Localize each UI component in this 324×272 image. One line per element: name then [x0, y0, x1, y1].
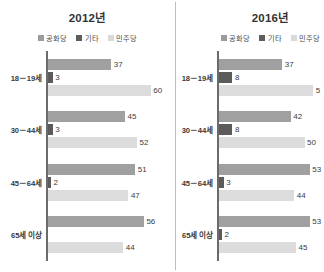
- bar-row-republican: 37: [48, 59, 175, 70]
- bar-value-other: 3: [226, 178, 230, 187]
- legend-label-other: 기타: [85, 33, 99, 43]
- legend-swatch-democrat-icon: [108, 35, 114, 41]
- dual-bar-chart-figure: 2012년 공화당 기타 민주당 18－19세: [0, 0, 324, 272]
- bar-group: 65세 이상 53 2 45: [175, 211, 324, 259]
- chart-title-2016: 2016년: [175, 0, 324, 26]
- bar-row-democrat: 44: [219, 190, 324, 201]
- bar-republican: [219, 59, 283, 70]
- bar-value-other: 2: [53, 178, 57, 187]
- chart-panel-2016: 2016년 공화당 기타 민주당 18－19세: [175, 0, 324, 272]
- bar-set: 53 2 45: [217, 211, 324, 259]
- bar-group: 18－19세 37 3 60: [0, 53, 175, 101]
- bar-value-republican: 42: [293, 112, 302, 121]
- legend-label-republican: 공화당: [229, 33, 250, 43]
- category-label: 45－64세: [175, 177, 217, 188]
- bar-set: 45 3 52: [46, 106, 175, 154]
- bar-set: 42 8 50: [217, 106, 324, 154]
- bar-group: 30－44세 42 8 50: [175, 106, 324, 154]
- legend-item-democrat: 민주당: [291, 33, 321, 43]
- legend-label-democrat: 민주당: [299, 33, 320, 43]
- legend-label-democrat: 민주당: [116, 33, 137, 43]
- bar-other: [219, 72, 233, 83]
- bar-row-republican: 56: [48, 216, 175, 227]
- category-label: 18－19세: [175, 72, 217, 83]
- legend-item-republican: 공화당: [221, 33, 251, 43]
- bar-row-other: 3: [48, 72, 175, 83]
- bar-row-democrat: 60: [48, 85, 175, 96]
- bar-republican: [219, 216, 310, 227]
- bar-value-democrat: 5: [316, 86, 320, 95]
- bar-row-democrat: 50: [219, 137, 324, 148]
- plot-area-2016: 18－19세 37 8 5: [175, 51, 324, 267]
- bar-democrat: [219, 242, 296, 253]
- bar-value-democrat: 44: [126, 243, 135, 252]
- bar-row-other: 3: [48, 124, 175, 135]
- bar-democrat: [48, 137, 137, 148]
- bar-republican: [219, 164, 310, 175]
- bar-row-republican: 51: [48, 164, 175, 175]
- legend-item-other: 기타: [259, 33, 282, 43]
- bar-republican: [48, 164, 136, 175]
- bar-value-republican: 45: [127, 112, 136, 121]
- bar-row-republican: 37: [219, 59, 324, 70]
- bar-set: 37 3 60: [46, 53, 175, 101]
- legend-swatch-republican-icon: [38, 35, 44, 41]
- legend-swatch-republican-icon: [221, 35, 227, 41]
- bar-value-democrat: 45: [298, 243, 307, 252]
- bar-democrat: [219, 137, 305, 148]
- bar-group: 65세 이상 56 44: [0, 211, 175, 259]
- bar-row-republican: 53: [219, 164, 324, 175]
- legend-swatch-other-icon: [76, 35, 82, 41]
- bar-other: [48, 72, 53, 83]
- bar-value-other: 8: [235, 73, 239, 82]
- bar-value-democrat: 44: [297, 191, 306, 200]
- bar-set: 37 8 5: [217, 53, 324, 101]
- category-label: 45－64세: [0, 177, 46, 188]
- bar-row-democrat: 5: [219, 85, 324, 96]
- legend-item-democrat: 민주당: [108, 33, 138, 43]
- bar-row-other: 2: [48, 177, 175, 188]
- bar-value-republican: 37: [114, 60, 123, 69]
- bar-republican: [219, 111, 291, 122]
- bar-row-other: 8: [219, 72, 324, 83]
- legend-2016: 공화당 기타 민주당: [175, 31, 324, 45]
- bar-republican: [48, 59, 112, 70]
- bar-row-democrat: 52: [48, 137, 175, 148]
- bar-value-republican: 37: [285, 60, 294, 69]
- bar-democrat: [48, 242, 124, 253]
- bar-value-democrat: 50: [307, 138, 316, 147]
- bar-other: [48, 177, 51, 188]
- bar-group: 18－19세 37 8 5: [175, 53, 324, 101]
- bar-set: 53 3 44: [217, 158, 324, 206]
- category-label: 30－44세: [175, 124, 217, 135]
- legend-item-republican: 공화당: [38, 33, 68, 43]
- bar-group: 45－64세 53 3 44: [175, 158, 324, 206]
- bar-value-republican: 53: [312, 217, 321, 226]
- bar-groups-2016: 18－19세 37 8 5: [175, 51, 324, 261]
- category-label: 18－19세: [0, 72, 46, 83]
- bar-row-other: 8: [219, 124, 324, 135]
- bar-value-other: 2: [224, 230, 228, 239]
- bar-republican: [48, 216, 144, 227]
- legend-swatch-other-icon: [259, 35, 265, 41]
- bar-other: [48, 124, 53, 135]
- chart-title-2012: 2012년: [0, 0, 175, 26]
- bar-democrat: [48, 190, 129, 201]
- bar-set: 51 2 47: [46, 158, 175, 206]
- bar-row-other: 2: [219, 229, 324, 240]
- bar-value-republican: 56: [146, 217, 155, 226]
- bar-value-other: 3: [55, 73, 59, 82]
- bar-set: 56 44: [46, 211, 175, 259]
- bar-value-other: 3: [55, 125, 59, 134]
- bar-value-democrat: 47: [131, 191, 140, 200]
- bar-row-other: [48, 229, 175, 240]
- legend-swatch-democrat-icon: [291, 35, 297, 41]
- category-label: 65세 이상: [0, 229, 46, 240]
- bar-row-republican: 45: [48, 111, 175, 122]
- bar-row-democrat: 44: [48, 242, 175, 253]
- bar-republican: [48, 111, 125, 122]
- bar-value-other: 8: [235, 125, 239, 134]
- legend-label-republican: 공화당: [46, 33, 67, 43]
- bar-value-democrat: 52: [139, 138, 148, 147]
- bar-democrat: [219, 85, 314, 96]
